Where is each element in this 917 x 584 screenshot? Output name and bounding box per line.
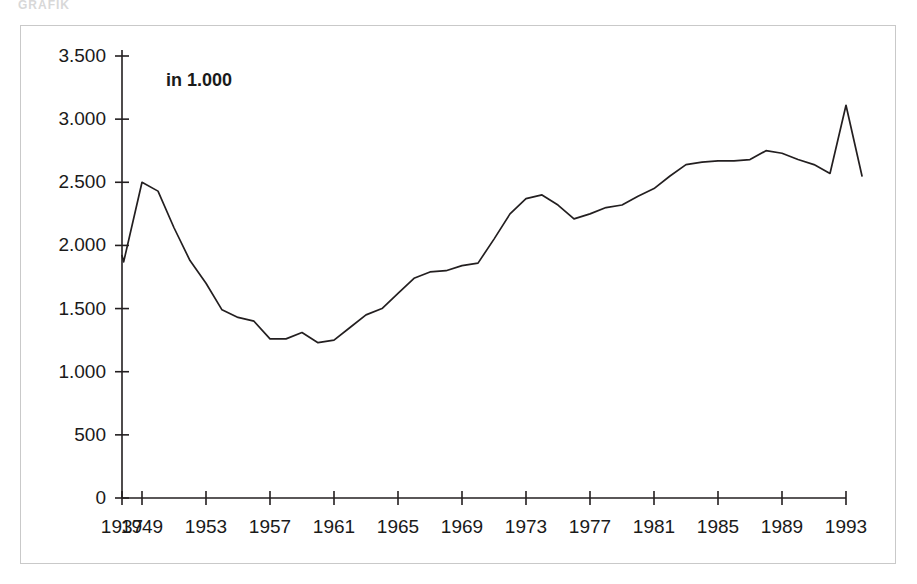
y-axis-tick-label: 2.500 xyxy=(21,171,106,193)
y-axis-tick-label: 3.000 xyxy=(21,108,106,130)
y-axis-tick-label: 3.500 xyxy=(21,45,106,67)
x-axis-tick-label: 1993 xyxy=(825,516,867,538)
line-chart-plot xyxy=(21,26,895,563)
y-axis-tick-label: 1.500 xyxy=(21,298,106,320)
x-axis-tick-label: 1981 xyxy=(633,516,675,538)
x-axis-tick-label: 1973 xyxy=(505,516,547,538)
x-axis-tick-label: 1961 xyxy=(313,516,355,538)
y-axis-tick-label: 0 xyxy=(21,487,106,509)
y-axis-tick-label: 1.000 xyxy=(21,361,106,383)
chart-page: GRAFIK in 1.000 05001.0001.5002.0002.500… xyxy=(0,0,917,584)
x-axis-tick-label: 1957 xyxy=(249,516,291,538)
y-axis-tick-label: 500 xyxy=(21,424,106,446)
x-axis-tick-label: 1953 xyxy=(185,516,227,538)
x-axis-tick-label: 1969 xyxy=(441,516,483,538)
chart-frame: in 1.000 05001.0001.5002.0002.5003.0003.… xyxy=(20,25,896,564)
y-axis-tick-label: 2.000 xyxy=(21,234,106,256)
clipped-caption-text: GRAFIK xyxy=(18,0,138,11)
x-axis-tick-label: 1965 xyxy=(377,516,419,538)
x-axis-tick-label: 1989 xyxy=(761,516,803,538)
x-axis-tick-label: 1949 xyxy=(121,516,163,538)
x-axis-tick-label: 1985 xyxy=(697,516,739,538)
x-axis-tick-label: 1977 xyxy=(569,516,611,538)
